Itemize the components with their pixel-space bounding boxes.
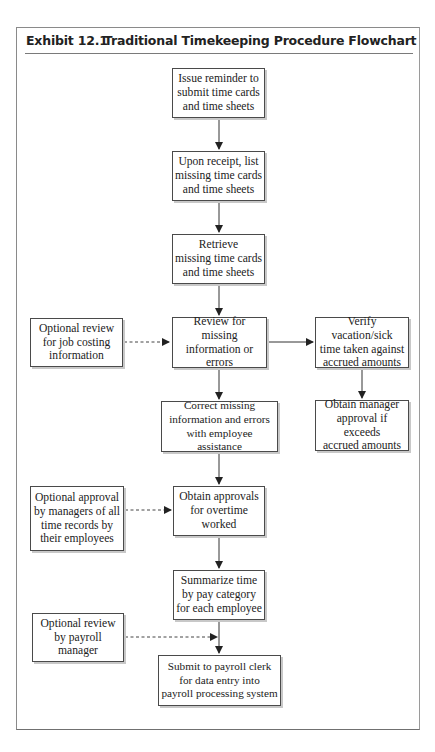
step-summarize-time: Summarize time by pay category for each … [173,570,265,620]
step-list-missing: Upon receipt, list missing time cards an… [172,151,265,201]
step-label: Submit to payroll clerk for data entry i… [161,660,277,701]
step-label: Summarize time by pay category for each … [176,574,262,615]
step-label: Correct missing information and errors w… [164,399,275,454]
step-submit-payroll: Submit to payroll clerk for data entry i… [158,655,281,706]
step-retrieve-missing: Retrieve missing time cards and time she… [172,234,265,284]
step-label: Optional review for job costing informat… [39,322,114,363]
step-label: Obtain manager approval if exceeds accru… [318,398,406,453]
optional-manager-approval: Optional approval by managers of all tim… [30,486,124,551]
exhibit-number: Exhibit 12.1 [26,33,104,48]
exhibit-heading: Exhibit 12.1Traditional Timekeeping Proc… [26,33,413,53]
step-issue-reminder: Issue reminder to submit time cards and … [172,68,265,118]
step-label: Optional review by payroll manager [40,617,115,658]
step-obtain-approvals: Obtain approvals for overtime worked [173,486,265,536]
step-review-missing: Review for missing information or errors [172,317,267,368]
step-manager-approval: Obtain manager approval if exceeds accru… [315,400,409,451]
step-label: Upon receipt, list missing time cards an… [175,155,262,196]
title-divider [25,53,413,54]
step-label: Optional approval by managers of all tim… [34,491,120,546]
step-label: Issue reminder to submit time cards and … [177,72,259,113]
optional-payroll-review: Optional review by payroll manager [32,613,124,662]
optional-job-costing-review: Optional review for job costing informat… [30,318,123,367]
step-label: Review for missing information or errors [175,315,264,370]
step-label: Verify vacation/sick time taken against … [318,315,406,370]
step-label: Retrieve missing time cards and time she… [175,238,262,279]
step-verify-vacation: Verify vacation/sick time taken against … [315,317,409,368]
step-label: Obtain approvals for overtime worked [179,490,259,531]
exhibit-title: Traditional Timekeeping Procedure Flowch… [104,33,416,48]
step-correct-missing: Correct missing information and errors w… [161,401,278,452]
